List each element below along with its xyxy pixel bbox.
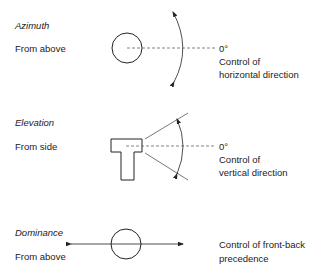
elevation-description-line1: Control of [219, 154, 260, 165]
dominance-figure [71, 229, 183, 259]
dominance-title: Dominance [15, 227, 63, 238]
azimuth-description-line1: Control of [219, 56, 260, 67]
elevation-description-line2: vertical direction [219, 167, 288, 178]
azimuth-description-line2: horizontal direction [219, 69, 299, 80]
azimuth-figure [112, 12, 216, 82]
elevation-title: Elevation [15, 117, 54, 128]
dominance-description-line1: Control of front-back [219, 239, 305, 250]
elevation-figure [111, 113, 216, 180]
elevation-t-shape [111, 139, 142, 180]
dominance-description-line2: precedence [219, 253, 269, 264]
azimuth-title: Azimuth [15, 20, 49, 31]
elevation-zero-label: 0° [219, 141, 228, 152]
azimuth-rotation-arrow [173, 12, 183, 82]
azimuth-view-label: From above [15, 43, 66, 54]
azimuth-zero-label: 0° [219, 43, 228, 54]
elevation-rotation-arrow [177, 119, 183, 174]
elevation-lower-bound [145, 153, 188, 180]
elevation-upper-bound [145, 113, 188, 139]
dominance-view-label: From above [15, 251, 66, 262]
elevation-view-label: From side [15, 141, 57, 152]
